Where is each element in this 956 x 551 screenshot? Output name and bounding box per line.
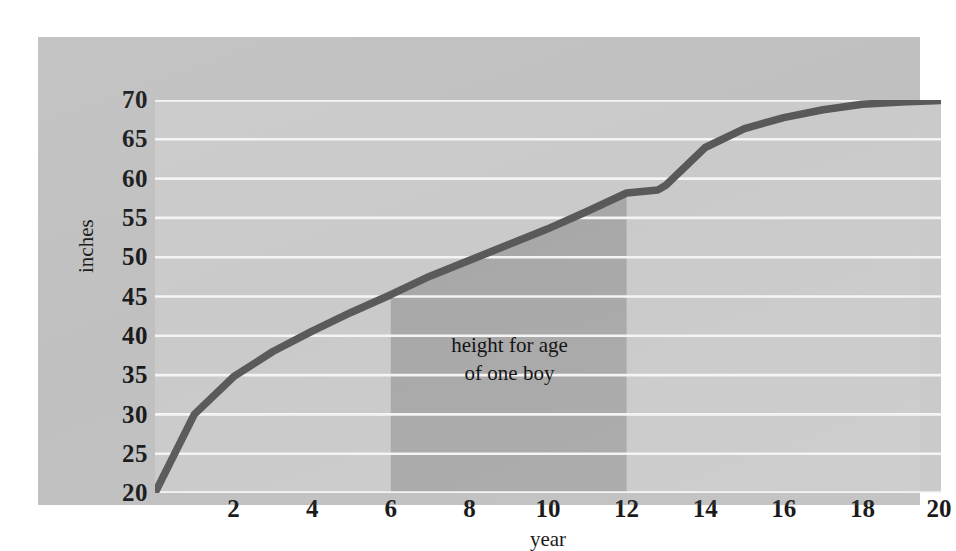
plot-canvas [155, 100, 941, 493]
y-axis-tick: 65 [92, 126, 148, 151]
chart-card: 70 65 60 55 50 45 40 35 30 25 20 [38, 37, 920, 505]
x-axis-tick: 20 [909, 496, 956, 521]
y-axis-tick: 25 [92, 441, 148, 466]
x-axis-tick: 14 [675, 496, 735, 521]
y-axis-tick: 50 [92, 244, 148, 269]
y-axis-tick: 35 [92, 362, 148, 387]
x-axis-tick-group: 2 4 6 8 10 12 14 16 18 20 [155, 496, 941, 530]
y-axis-tick: 30 [92, 402, 148, 427]
x-axis-tick: 12 [597, 496, 657, 521]
x-axis-tick: 4 [282, 496, 342, 521]
plot-area [155, 100, 941, 493]
x-axis-tick: 8 [439, 496, 499, 521]
y-axis-tick-group: 70 65 60 55 50 45 40 35 30 25 20 [84, 100, 148, 493]
x-axis-tick: 2 [204, 496, 264, 521]
x-axis-tick: 6 [361, 496, 421, 521]
y-axis-tick: 45 [92, 284, 148, 309]
y-axis-title: inches [76, 219, 97, 273]
y-axis-tick: 40 [92, 323, 148, 348]
y-axis-tick: 60 [92, 166, 148, 191]
y-axis-tick: 20 [92, 480, 148, 505]
shaded-band-height-for-age [391, 193, 627, 493]
x-axis-title: year [155, 529, 941, 550]
y-axis-tick: 55 [92, 205, 148, 230]
x-axis-tick: 10 [518, 496, 578, 521]
y-axis-tick: 70 [92, 87, 148, 112]
x-axis-tick: 18 [832, 496, 892, 521]
x-axis-tick: 16 [754, 496, 814, 521]
